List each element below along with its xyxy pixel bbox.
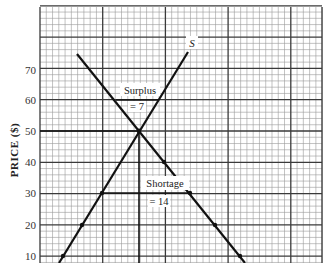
- equilibrium-point: [137, 129, 142, 134]
- y-tick-10: 10: [25, 250, 37, 262]
- y-tick-30: 30: [25, 187, 37, 199]
- supply-demand-chart: 70 60 50 40 30 20 10 PRICE ($) Surplus =…: [0, 0, 333, 263]
- supply-point-30: [100, 191, 104, 195]
- y-tick-20: 20: [25, 219, 37, 231]
- demand-point-30: [188, 191, 192, 195]
- y-tick-60: 60: [25, 94, 37, 106]
- shortage-value: = 14: [149, 196, 169, 207]
- demand-point-20: [213, 223, 217, 227]
- supply-curve-label: S: [189, 37, 195, 49]
- y-tick-40: 40: [25, 156, 37, 168]
- supply-point-20: [80, 223, 84, 227]
- y-axis-ticks: 70 60 50 40 30 20 10: [25, 64, 37, 262]
- y-tick-70: 70: [25, 64, 37, 76]
- supply-point-10: [61, 254, 65, 258]
- surplus-label: Surplus: [124, 85, 156, 96]
- demand-point-40: [162, 160, 166, 164]
- shortage-label: Shortage: [146, 178, 184, 189]
- demand-point-10: [238, 254, 242, 258]
- y-tick-50: 50: [25, 125, 37, 137]
- surplus-value: = 7: [130, 101, 144, 112]
- y-axis-label: PRICE ($): [8, 123, 21, 177]
